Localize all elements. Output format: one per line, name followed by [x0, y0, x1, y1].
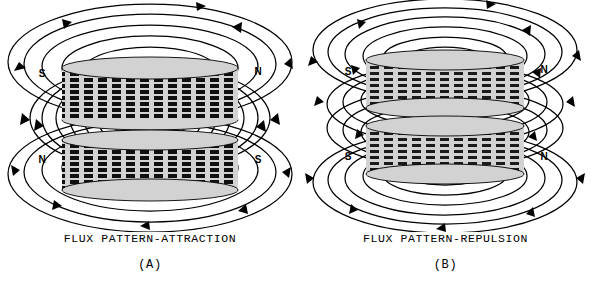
- magnet-upper-a: [62, 57, 238, 130]
- flux-diagram-a: S N N S: [0, 0, 300, 232]
- panel-attraction: S N N S FLUX PATTERN-ATTRACTION (A): [0, 0, 300, 282]
- caption-a: FLUX PATTERN-ATTRACTION: [0, 232, 300, 245]
- pole-label-upper-right-b: N: [540, 64, 547, 75]
- arrowhead: [308, 56, 318, 66]
- magnet-lower-b: [366, 116, 524, 184]
- magnet-upper-b: [366, 50, 524, 118]
- pole-label-upper-left-b: S: [345, 66, 352, 77]
- arrowhead: [20, 113, 30, 125]
- flux-diagram-b: S N S N: [300, 0, 591, 232]
- pole-label-lower-right-a: S: [255, 154, 262, 165]
- pole-label-upper-left-a: S: [39, 68, 46, 79]
- arrowhead: [314, 96, 324, 106]
- arrowhead: [11, 165, 20, 176]
- arrowhead: [566, 96, 575, 107]
- caption-b: FLUX PATTERN-REPULSION: [300, 232, 591, 245]
- flux-pattern-figure: S N N S FLUX PATTERN-ATTRACTION (A): [0, 0, 591, 282]
- arrowhead: [486, 0, 496, 9]
- arrowhead: [522, 25, 531, 36]
- magnet-lower-a: [62, 130, 238, 201]
- arrowhead: [232, 22, 242, 33]
- pole-label-upper-right-a: N: [254, 66, 261, 77]
- arrowhead: [196, 2, 206, 11]
- arrowhead: [52, 200, 62, 210]
- panel-repulsion: S N S N FLUX PATTERN-REPULSION (B): [300, 0, 591, 282]
- pole-label-lower-left-b: S: [345, 151, 352, 162]
- arrowhead: [282, 167, 291, 178]
- panel-label-a: (A): [0, 258, 300, 272]
- pole-label-lower-left-a: N: [38, 154, 45, 165]
- arrowhead: [270, 113, 280, 125]
- panel-label-b: (B): [300, 258, 591, 272]
- pole-label-lower-right-b: N: [540, 151, 547, 162]
